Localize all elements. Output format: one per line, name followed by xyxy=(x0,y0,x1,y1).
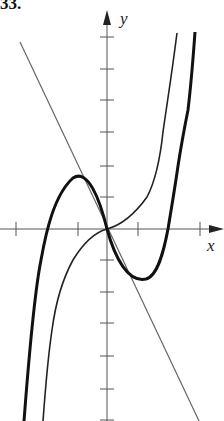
x-axis xyxy=(0,222,224,236)
x-axis-label: x xyxy=(207,236,215,256)
y-axis-arrow-icon xyxy=(103,10,111,25)
thin-curve xyxy=(43,33,177,421)
graph-figure xyxy=(0,0,224,421)
y-axis-label: y xyxy=(120,9,128,29)
x-axis-arrow-icon xyxy=(209,225,224,233)
